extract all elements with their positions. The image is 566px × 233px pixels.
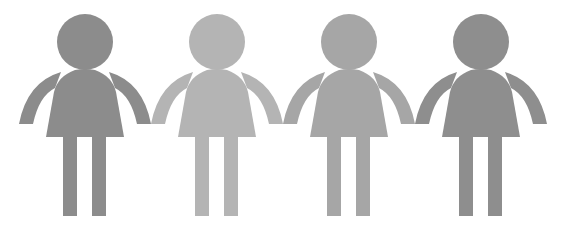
figure-1-person-icon [19,14,151,216]
figure-4-person-icon [415,14,547,216]
figure-2-person-icon [151,14,283,216]
people-illustration [0,0,566,233]
figure-3-person-icon [283,14,415,216]
